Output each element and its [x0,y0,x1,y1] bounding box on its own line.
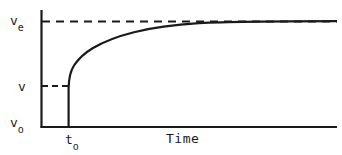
velocity-curve [69,21,337,127]
x-axis-label-to: to [65,131,79,150]
y-axis-label-vo: vo [10,114,24,133]
vo-base: v [10,115,18,130]
to-subscript: o [73,141,79,152]
velocity-time-figure: ve v vo to Time [0,0,342,155]
x-axis-title: Time [166,132,199,145]
vo-subscript: o [18,124,24,135]
y-axis-label-ve: ve [10,12,24,31]
v-base: v [18,79,26,94]
y-axis-label-v: v [18,78,26,94]
to-base: t [65,132,73,147]
ve-base: v [10,13,18,28]
ve-subscript: e [18,22,24,33]
